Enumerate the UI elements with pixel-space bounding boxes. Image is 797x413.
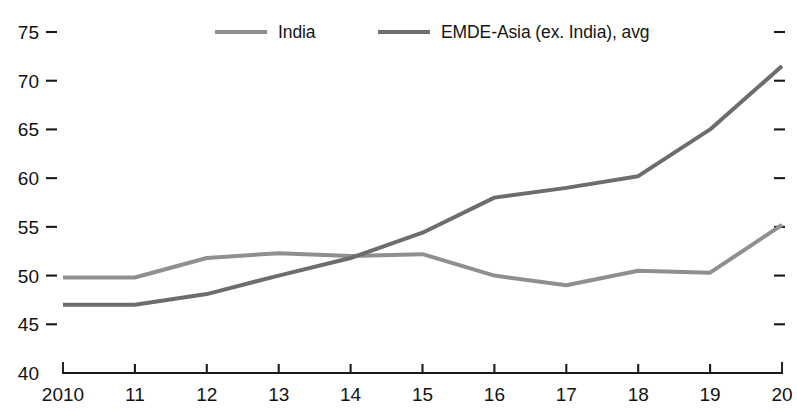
series-group	[63, 66, 782, 305]
y-axis-labels: 4045505560657075	[18, 22, 39, 384]
x-tick-label: 15	[412, 384, 433, 405]
x-tick-label: 19	[700, 384, 721, 405]
y-tick-label: 65	[18, 119, 39, 140]
x-tick-label: 11	[125, 384, 145, 405]
x-tick-label: 16	[484, 384, 505, 405]
x-tick-label: 2010	[42, 384, 84, 405]
y-axis-right-ticks	[774, 32, 785, 324]
x-axis-labels: 201011121314151617181920	[42, 384, 793, 405]
x-tick-label: 13	[268, 384, 289, 405]
line-chart: India EMDE-Asia (ex. India), avg 4045505…	[0, 0, 797, 413]
y-tick-label: 60	[18, 168, 39, 189]
x-tick-label: 20	[771, 384, 792, 405]
y-tick-label: 40	[18, 363, 39, 384]
plot-area: 4045505560657075 20101112131415161718192…	[0, 0, 797, 413]
x-tick-label: 14	[340, 384, 362, 405]
x-tick-label: 17	[556, 384, 577, 405]
y-tick-label: 45	[18, 314, 39, 335]
x-tick-label: 18	[628, 384, 649, 405]
x-tick-label: 12	[196, 384, 217, 405]
x-axis-ticks	[135, 364, 710, 373]
y-tick-label: 75	[18, 22, 39, 43]
y-tick-label: 50	[18, 266, 39, 287]
y-tick-label: 55	[18, 217, 39, 238]
y-tick-label: 70	[18, 71, 39, 92]
y-axis-left-ticks	[46, 32, 57, 324]
